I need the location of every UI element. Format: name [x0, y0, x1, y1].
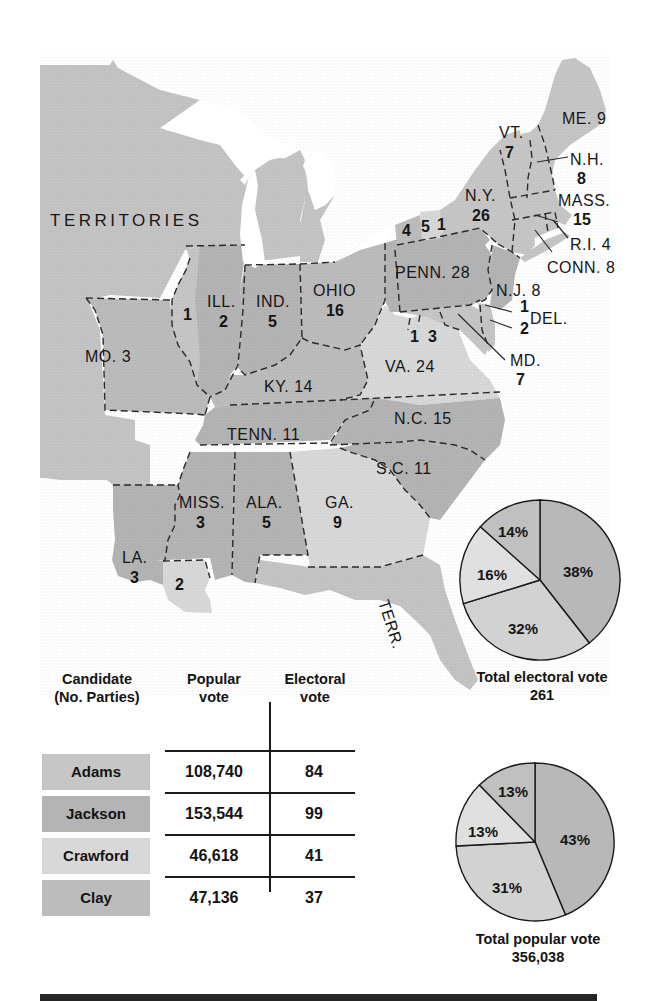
- popular-caption-total: 356,038: [448, 948, 628, 966]
- label-north-carolina: N.C. 15: [394, 410, 452, 427]
- label-mississippi: MISS.: [179, 494, 225, 511]
- label-kentucky: KY. 14: [264, 378, 313, 395]
- header-popular-line2: vote: [162, 688, 266, 706]
- label-indiana: IND.: [256, 293, 290, 310]
- electoral-vote-cell: 99: [272, 796, 356, 832]
- table-row: Jackson 153,544 99: [42, 796, 362, 832]
- pie-label-jackson: 43%: [560, 831, 590, 848]
- electoral-vote-pie: 38% 32% 16% 14%: [460, 500, 620, 660]
- label-connecticut: CONN. 8: [547, 259, 615, 276]
- candidate-swatch: Crawford: [42, 838, 150, 874]
- table-row: Adams 108,740 84: [42, 754, 362, 790]
- pie-label-clay: 14%: [498, 523, 528, 540]
- label-louisiana-votes: 3: [130, 569, 139, 586]
- pie-label-jackson: 38%: [563, 563, 593, 580]
- label-missouri: MO. 3: [85, 348, 131, 365]
- row-divider: [165, 834, 355, 836]
- label-massachusetts: MASS.: [558, 192, 610, 209]
- header-popular-line1: Popular: [162, 670, 266, 688]
- territories-label: TERRITORIES: [50, 211, 202, 230]
- label-tennessee: TENN. 11: [227, 426, 300, 443]
- label-rhode-island: R.I. 4: [570, 236, 611, 253]
- pie-label-crawford: 16%: [477, 566, 507, 583]
- label-georgia: GA.: [325, 494, 354, 511]
- label-ny-split-4: 4: [402, 222, 411, 239]
- label-new-hampshire-votes: 8: [577, 170, 586, 187]
- electoral-vote-cell: 37: [272, 880, 356, 916]
- label-vermont-votes: 7: [505, 144, 514, 161]
- label-virginia: VA. 24: [385, 358, 435, 375]
- label-ny-split-5: 5: [421, 218, 430, 235]
- candidate-swatch: Adams: [42, 754, 150, 790]
- label-maryland: MD.: [510, 352, 541, 369]
- header-electoral-line2: vote: [270, 688, 360, 706]
- label-alabama-votes: 5: [262, 514, 271, 531]
- row-divider: [165, 750, 355, 752]
- candidate-swatch: Clay: [42, 880, 150, 916]
- header-electoral-line1: Electoral: [270, 670, 360, 688]
- label-ohio: OHIO: [313, 282, 356, 299]
- popular-vote-pie: 43% 31% 13% 13%: [456, 763, 614, 921]
- electoral-vote-cell: 84: [272, 754, 356, 790]
- label-new-jersey: N.J. 8: [496, 282, 541, 299]
- label-south-carolina: S.C. 11: [376, 460, 432, 477]
- electoral-caption-title: Total electoral vote: [452, 668, 632, 686]
- popular-vote-cell: 153,544: [162, 796, 266, 832]
- electoral-pie-caption: Total electoral vote 261: [452, 668, 632, 704]
- label-md-split-3: 3: [428, 328, 437, 345]
- popular-pie-caption: Total popular vote 356,038: [448, 930, 628, 966]
- pie-label-adams: 31%: [492, 879, 522, 896]
- label-mississippi-votes: 3: [196, 514, 205, 531]
- label-md-split-1: 1: [410, 328, 419, 345]
- label-illinois-split-1: 1: [183, 306, 192, 323]
- label-georgia-votes: 9: [333, 514, 342, 531]
- label-illinois: ILL.: [207, 293, 236, 310]
- label-new-york-votes: 26: [472, 207, 490, 224]
- label-illinois-votes: 2: [219, 313, 228, 330]
- label-maryland-votes: 7: [516, 371, 525, 388]
- pie-label-adams: 32%: [508, 620, 538, 637]
- label-pennsylvania: PENN. 28: [395, 264, 470, 281]
- table-row: Clay 47,136 37: [42, 880, 362, 916]
- candidate-swatch: Jackson: [42, 796, 150, 832]
- bottom-rule: [40, 994, 597, 1001]
- label-delaware-split-1: 1: [520, 298, 529, 315]
- label-new-hampshire: N.H.: [570, 151, 604, 168]
- header-popular: Popular vote: [162, 670, 266, 706]
- state-new-jersey: [488, 245, 520, 310]
- label-ohio-votes: 16: [326, 302, 344, 319]
- label-delaware: DEL.: [530, 310, 568, 327]
- label-indiana-votes: 5: [268, 313, 277, 330]
- label-ny-split-1: 1: [437, 216, 446, 233]
- header-candidate-line2: (No. Parties): [42, 688, 152, 706]
- label-alabama: ALA.: [246, 494, 283, 511]
- label-maine: ME. 9: [562, 110, 606, 127]
- row-divider: [165, 792, 355, 794]
- popular-vote-cell: 46,618: [162, 838, 266, 874]
- label-massachusetts-votes: 15: [573, 211, 591, 228]
- label-delaware-split-2: 2: [520, 320, 529, 337]
- popular-caption-title: Total popular vote: [448, 930, 628, 948]
- pie-label-crawford: 13%: [468, 823, 498, 840]
- pie-label-clay: 13%: [498, 783, 528, 800]
- electoral-vote-cell: 41: [272, 838, 356, 874]
- label-louisiana: LA.: [122, 549, 148, 566]
- popular-vote-cell: 47,136: [162, 880, 266, 916]
- label-new-york: N.Y.: [465, 187, 496, 204]
- label-vermont: VT.: [499, 124, 524, 141]
- row-divider: [165, 876, 355, 878]
- popular-vote-cell: 108,740: [162, 754, 266, 790]
- header-candidate: Candidate (No. Parties): [42, 670, 152, 706]
- header-electoral: Electoral vote: [270, 670, 360, 706]
- table-row: Crawford 46,618 41: [42, 838, 362, 874]
- label-louisiana-split-2: 2: [175, 576, 184, 593]
- electoral-caption-total: 261: [452, 686, 632, 704]
- state-louisiana-split: [163, 560, 212, 613]
- header-candidate-line1: Candidate: [42, 670, 152, 688]
